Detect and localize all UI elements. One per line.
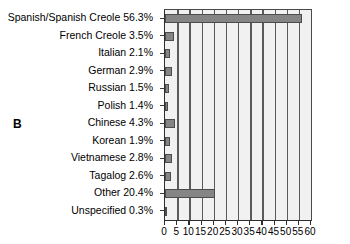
category-label: Chinese 4.3%	[88, 117, 153, 128]
x-axis-tick	[225, 220, 226, 225]
x-axis-tick-label: 5	[173, 226, 179, 238]
category-label: Russian 1.5%	[88, 82, 153, 93]
x-axis-tick	[213, 220, 214, 225]
category-label: Italian 2.1%	[98, 47, 153, 58]
category-label-row: Tagalog 2.6%	[0, 167, 157, 185]
category-label-row: Polish 1.4%	[0, 97, 157, 115]
x-axis-tick-label: 20	[207, 226, 218, 238]
bar-series	[165, 10, 311, 220]
bar-row	[165, 185, 311, 203]
bar	[165, 137, 170, 146]
x-axis-tick	[188, 220, 189, 225]
category-label: French Creole 3.5%	[60, 30, 153, 41]
x-axis-tick	[298, 220, 299, 225]
category-label-row: Spanish/Spanish Creole 56.3%	[0, 9, 157, 27]
x-axis-tick	[237, 220, 238, 225]
x-axis-tick-label: 15	[195, 226, 206, 238]
category-label-row: Unspecified 0.3%	[0, 202, 157, 220]
bar	[165, 119, 175, 128]
x-axis-tick	[310, 220, 311, 225]
bar	[165, 172, 171, 181]
x-axis-tick-label: 0	[161, 226, 167, 238]
bar-row	[165, 45, 311, 63]
bar-row	[165, 63, 311, 81]
x-axis-tick	[176, 220, 177, 225]
bar-row	[165, 150, 311, 168]
bar	[165, 189, 215, 198]
plot-area	[164, 9, 312, 221]
bar	[165, 67, 172, 76]
category-label-row: Chinese 4.3%	[0, 114, 157, 132]
bar-row	[165, 203, 311, 221]
bar	[165, 32, 174, 41]
x-axis-tick-label: 25	[219, 226, 230, 238]
category-label-row: Italian 2.1%	[0, 44, 157, 62]
category-label-row: Russian 1.5%	[0, 79, 157, 97]
x-axis-tick-label: 45	[268, 226, 279, 238]
bar-row	[165, 80, 311, 98]
bar	[165, 49, 170, 58]
bar	[165, 207, 167, 216]
category-label-row: German 2.9%	[0, 62, 157, 80]
bar	[165, 14, 302, 23]
x-axis-tick	[261, 220, 262, 225]
category-label: German 2.9%	[88, 65, 153, 76]
category-label: Korean 1.9%	[92, 135, 153, 146]
category-label-row: Vietnamese 2.8%	[0, 149, 157, 167]
x-axis-tick-label: 10	[183, 226, 194, 238]
bar	[165, 154, 172, 163]
bar	[165, 84, 169, 93]
x-axis-tick	[201, 220, 202, 225]
bar-row	[165, 115, 311, 133]
x-axis-tick	[274, 220, 275, 225]
category-label: Vietnamese 2.8%	[71, 152, 153, 163]
bar-row	[165, 133, 311, 151]
bar-row	[165, 98, 311, 116]
category-label-row: Other 20.4%	[0, 184, 157, 202]
x-axis-tick-label: 55	[292, 226, 303, 238]
x-axis-tick-label: 35	[244, 226, 255, 238]
category-label-row: French Creole 3.5%	[0, 27, 157, 45]
bar	[165, 102, 168, 111]
x-axis-tick-label: 60	[304, 226, 315, 238]
category-axis-labels: Spanish/Spanish Creole 56.3%French Creol…	[0, 9, 157, 219]
x-axis-tick	[249, 220, 250, 225]
category-label: Spanish/Spanish Creole 56.3%	[8, 12, 153, 23]
x-axis-tick	[286, 220, 287, 225]
x-axis-tick-label: 40	[256, 226, 267, 238]
x-axis-tick-label: 30	[231, 226, 242, 238]
figure-panel-b: B Spanish/Spanish Creole 56.3%French Cre…	[0, 0, 350, 244]
bar-row	[165, 168, 311, 186]
category-label: Tagalog 2.6%	[89, 170, 153, 181]
x-axis: 051015202530354045505560	[164, 220, 311, 244]
category-label: Polish 1.4%	[98, 100, 153, 111]
bar-row	[165, 10, 311, 28]
x-axis-tick-label: 50	[280, 226, 291, 238]
category-label: Other 20.4%	[94, 187, 153, 198]
category-label: Unspecified 0.3%	[71, 205, 153, 216]
bar-row	[165, 28, 311, 46]
x-axis-tick	[164, 220, 165, 225]
category-label-row: Korean 1.9%	[0, 132, 157, 150]
